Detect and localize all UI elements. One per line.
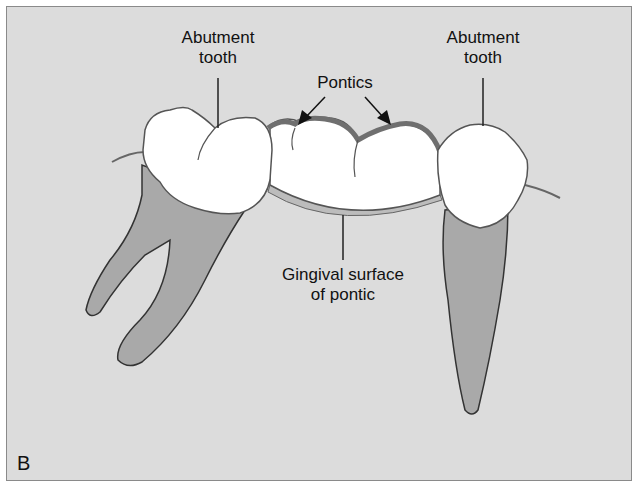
arrow-pontic-right-line [365, 97, 383, 117]
label-abutment-left: Abutment tooth [168, 28, 268, 68]
right-tooth-root [443, 205, 508, 414]
panel-letter: B [17, 452, 30, 475]
pontic-body [270, 117, 440, 210]
label-text: Gingival surface [258, 265, 428, 285]
label-abutment-right: Abutment tooth [433, 28, 533, 68]
gum-line-right [525, 185, 560, 198]
arrow-pontic-left-line [306, 97, 325, 117]
label-gingival-surface: Gingival surface of pontic [258, 265, 428, 305]
label-pontics: Pontics [300, 73, 390, 93]
label-text: Abutment [168, 28, 268, 48]
right-abutment-crown [438, 124, 528, 228]
label-text: of pontic [258, 285, 428, 305]
gum-line [112, 152, 145, 162]
label-text: tooth [433, 48, 533, 68]
label-text: Abutment [433, 28, 533, 48]
label-text: tooth [168, 48, 268, 68]
